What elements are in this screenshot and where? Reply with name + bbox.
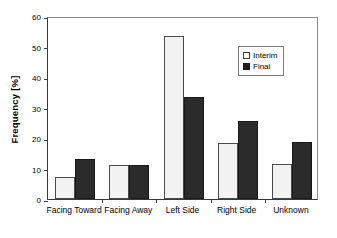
y-axis-title: Frequency [%] xyxy=(9,50,20,170)
x-tick-mark xyxy=(156,199,157,203)
y-tick-label: 50 xyxy=(21,43,41,54)
legend-swatch-interim-icon xyxy=(243,52,250,59)
bar-interim xyxy=(218,143,238,199)
bar-final xyxy=(238,121,258,199)
bar-interim xyxy=(164,36,184,199)
bar-chart: Frequency [%] 0102030405060 Facing Towar… xyxy=(0,0,337,238)
legend-item-final: Final xyxy=(243,61,277,72)
bar-final xyxy=(184,97,204,199)
y-tick-label: 40 xyxy=(21,73,41,84)
bar-final xyxy=(129,165,149,199)
bar-interim xyxy=(109,165,129,199)
x-tick-mark xyxy=(265,199,266,203)
bar-interim xyxy=(55,177,75,199)
legend-label-interim: Interim xyxy=(253,51,277,61)
legend-label-final: Final xyxy=(253,62,270,72)
x-tick-mark xyxy=(211,199,212,203)
legend-item-interim: Interim xyxy=(243,50,277,61)
bar-final xyxy=(75,159,95,199)
y-tick-label: 60 xyxy=(21,12,41,23)
bar-final xyxy=(292,142,312,199)
legend-swatch-final-icon xyxy=(243,63,250,70)
bar-interim xyxy=(272,164,292,199)
y-tick-label: 20 xyxy=(21,134,41,145)
plot-area: 0102030405060 xyxy=(47,17,318,200)
x-axis-label: Unknown xyxy=(251,205,331,216)
y-tick-mark xyxy=(44,201,48,202)
x-tick-mark xyxy=(102,199,103,203)
y-tick-label: 10 xyxy=(21,165,41,176)
y-tick-label: 30 xyxy=(21,104,41,115)
legend: Interim Final xyxy=(238,46,284,76)
